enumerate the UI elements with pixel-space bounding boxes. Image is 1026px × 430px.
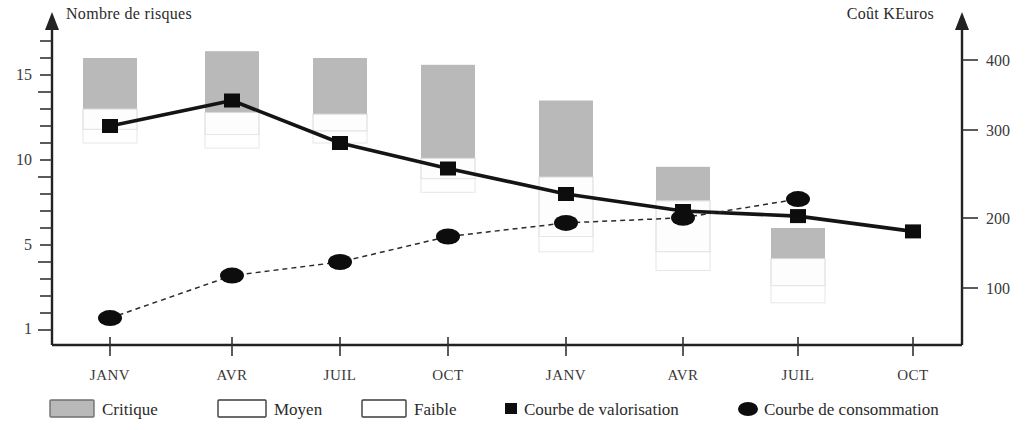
bar-segment-faible [539,237,593,252]
right-axis-title: Coût KEuros [847,5,934,22]
marker-consommation-4 [554,215,578,231]
marker-valorisation-1 [224,94,240,108]
legend-label-valorisation: Courbe de valorisation [524,400,679,419]
left-tick-label-15: 15 [16,66,32,83]
category-label-5: AVR [667,367,698,383]
bar-segment-faible [421,179,475,193]
risk-cost-chart: Nombre de risques Coût KEuros 15 10 [0,0,1026,430]
marker-valorisation-7 [905,224,921,238]
marker-consommation-3 [436,229,460,245]
category-label-3: OCT [432,367,464,383]
bar-segment-faible [771,286,825,303]
bar-segment-moyen [205,112,259,134]
bar-segment-critique [313,58,367,114]
marker-consommation-6 [786,191,810,207]
right-tick-label-200: 200 [986,210,1010,227]
marker-consommation-1 [220,268,244,284]
category-label-6: JUIL [782,367,815,383]
legend-swatch-critique [50,400,94,417]
legend-swatch-moyen [218,400,266,417]
chart-canvas: Nombre de risques Coût KEuros 15 10 [0,0,1026,430]
marker-valorisation-2 [332,136,348,150]
bar-segment-critique [421,65,475,159]
stacked-bar [771,228,825,303]
left-tick-label-10: 10 [16,151,32,168]
marker-valorisation-3 [440,162,456,176]
left-axis-arrow-icon [45,12,59,30]
stacked-bars-layer [83,51,825,303]
category-label-0: JANV [90,367,130,383]
marker-valorisation-0 [102,119,118,133]
right-tick-label-300: 300 [986,122,1010,139]
bar-segment-moyen [313,114,367,131]
right-tick-label-100: 100 [986,280,1010,297]
bar-segment-faible [205,135,259,149]
category-label-4: JANV [546,367,586,383]
left-axis-title: Nombre de risques [66,5,192,23]
legend-marker-consommation-icon [738,402,758,416]
right-axis-ticks [962,60,978,288]
left-tick-label-5: 5 [24,236,32,253]
right-tick-label-400: 400 [986,52,1010,69]
bar-segment-critique [771,228,825,259]
marker-valorisation-4 [558,187,574,201]
left-axis [45,12,59,345]
right-axis [955,12,969,345]
left-tick-label-1: 1 [24,320,32,337]
bar-segment-critique [83,58,137,109]
legend-label-critique: Critique [102,400,158,419]
right-axis-arrow-icon [955,12,969,30]
marker-valorisation-6 [790,209,806,223]
category-ticks [110,337,913,356]
marker-consommation-0 [98,310,122,326]
category-label-7: OCT [897,367,929,383]
bar-segment-critique [539,101,593,178]
left-axis-ticks [38,41,52,330]
marker-consommation-2 [328,254,352,270]
chart-legend: Critique Moyen Faible Courbe de valorisa… [50,400,939,419]
legend-label-faible: Faible [414,400,457,419]
legend-swatch-faible [362,400,406,417]
category-label-2: JUIL [324,367,357,383]
category-label-1: AVR [216,367,247,383]
stacked-bar [313,58,367,143]
marker-consommation-5 [671,210,695,226]
legend-label-consommation: Courbe de consommation [764,400,939,419]
legend-marker-valorisation-icon [505,403,517,414]
bar-segment-critique [656,167,710,201]
bar-segment-moyen [771,259,825,286]
bar-segment-faible [656,252,710,271]
legend-label-moyen: Moyen [274,400,323,419]
